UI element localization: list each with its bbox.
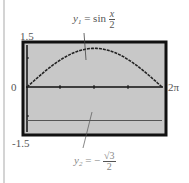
y-max-label: 1.5 xyxy=(20,31,34,42)
y2-label: y2 = − √32 xyxy=(74,151,116,172)
y-min-label: -1.5 xyxy=(12,138,29,149)
x-max-label: 2π xyxy=(168,82,179,93)
y1-label: y1 = sin x2 xyxy=(73,9,115,30)
x-min-label: 0 xyxy=(11,82,17,93)
